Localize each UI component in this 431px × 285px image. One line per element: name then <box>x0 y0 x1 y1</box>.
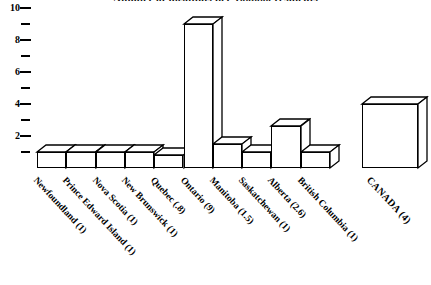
y-tick-mark-6 <box>20 71 31 73</box>
y-tick-mark-7 <box>21 55 30 57</box>
bar-prince-edward-island <box>66 152 95 168</box>
y-tick-major-4: 4 <box>0 104 32 105</box>
y-tick-minor-9 <box>0 24 32 25</box>
y-tick-major-6: 6 <box>0 72 32 73</box>
bar-alberta <box>271 126 300 168</box>
bar-side-face-british-columbia <box>330 145 342 171</box>
bar-ontario <box>184 24 213 168</box>
y-tick-minor-7 <box>0 56 32 57</box>
plot-area: 246810 Newfoundland (1)Prince Edward Isl… <box>0 0 431 285</box>
y-tick-minor-5 <box>0 88 32 89</box>
y-tick-major-10: 10 <box>0 8 32 9</box>
bar-canada <box>362 104 418 168</box>
bar-nova-scotia <box>96 152 125 168</box>
y-tick-mark-1 <box>21 151 30 153</box>
chart-figure: Number of hospitals per 100,000 resident… <box>0 0 431 285</box>
y-tick-mark-4 <box>20 103 31 105</box>
y-tick-major-2: 2 <box>0 136 32 137</box>
bar-british-columbia <box>301 152 330 168</box>
bar-new-brunswick <box>125 152 154 168</box>
bar-manitoba <box>213 144 242 168</box>
x-axis-label-newfoundland: Newfoundland (1) <box>32 175 89 235</box>
y-tick-major-8: 8 <box>0 40 32 41</box>
y-tick-mark-10 <box>20 7 31 9</box>
y-tick-mark-2 <box>20 135 31 137</box>
y-tick-mark-9 <box>21 23 30 25</box>
y-tick-mark-3 <box>21 119 30 121</box>
bar-saskatchewan <box>242 152 271 168</box>
y-tick-mark-5 <box>21 87 30 89</box>
x-axis-label-canada: CANADA (4) <box>365 175 413 226</box>
y-tick-label-10: 10 <box>10 3 20 13</box>
y-tick-minor-1 <box>0 152 32 153</box>
bar-side-face-canada <box>418 97 430 171</box>
y-tick-mark-8 <box>20 39 31 41</box>
y-tick-minor-3 <box>0 120 32 121</box>
bar-newfoundland <box>37 152 66 168</box>
x-axis-label-new-brunswick: New Brunswick (1) <box>120 175 180 239</box>
bar-quebec <box>154 155 183 168</box>
x-axis-label-saskatchewan: Saskatchewan (1) <box>237 175 293 234</box>
